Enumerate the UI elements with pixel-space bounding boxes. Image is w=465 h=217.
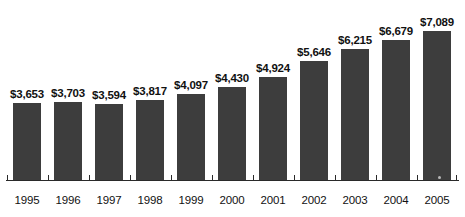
bar-group: $5,646 [300, 0, 328, 180]
x-axis-tick-mark [130, 175, 131, 180]
bar-chart: $3,653$3,703$3,594$3,817$4,097$4,430$4,9… [0, 0, 465, 217]
bar-value-label: $4,430 [215, 72, 249, 84]
x-axis-tick-label: 1996 [55, 194, 80, 206]
bar [259, 77, 287, 180]
bar [95, 104, 123, 180]
bar-group: $4,430 [218, 0, 246, 180]
x-axis-tick-label: 2005 [424, 194, 449, 206]
x-axis-tick-label: 2004 [383, 194, 408, 206]
x-axis-tick-mark [171, 175, 172, 180]
x-axis-tick-mark [253, 175, 254, 180]
bar-group: $3,703 [54, 0, 82, 180]
scan-artifact-speck [438, 176, 441, 179]
bar-value-label: $3,703 [51, 87, 85, 99]
bar-group: $3,817 [136, 0, 164, 180]
bar-group: $4,097 [177, 0, 205, 180]
x-axis-tick-label: 2002 [301, 194, 326, 206]
bar-value-label: $5,646 [297, 46, 331, 58]
x-axis-tick-mark [212, 175, 213, 180]
bar [136, 100, 164, 180]
bar [54, 102, 82, 180]
x-axis-tick-mark [48, 175, 49, 180]
bar [218, 87, 246, 180]
bar [382, 40, 410, 180]
bar [177, 94, 205, 180]
bar-group: $3,653 [13, 0, 41, 180]
bar-value-label: $3,817 [133, 85, 167, 97]
bar-value-label: $4,924 [256, 62, 290, 74]
x-axis-tick-mark [456, 175, 457, 180]
bar-value-label: $7,089 [420, 16, 454, 28]
x-axis-tick-label: 2001 [260, 194, 285, 206]
x-axis-tick-label: 1995 [14, 194, 39, 206]
x-axis-tick-mark [376, 175, 377, 180]
x-axis-tick-label: 1998 [137, 194, 162, 206]
x-axis-tick-mark [89, 175, 90, 180]
bar-value-label: $6,679 [379, 25, 413, 37]
x-axis-tick-label: 2000 [219, 194, 244, 206]
bar-value-label: $3,653 [10, 88, 44, 100]
x-axis-tick-label: 1999 [178, 194, 203, 206]
x-axis-baseline [6, 180, 459, 181]
x-axis-tick-mark [335, 175, 336, 180]
bar-group: $6,215 [341, 0, 369, 180]
bar [341, 49, 369, 180]
bar [423, 31, 451, 180]
bar-group: $7,089 [423, 0, 451, 180]
bar-value-label: $3,594 [92, 89, 126, 101]
bar [13, 103, 41, 180]
x-axis-tick-mark [7, 175, 8, 180]
bar [300, 61, 328, 180]
plot-area: $3,653$3,703$3,594$3,817$4,097$4,430$4,9… [0, 0, 465, 180]
bar-group: $4,924 [259, 0, 287, 180]
bar-value-label: $4,097 [174, 79, 208, 91]
x-axis-tick-label: 2003 [342, 194, 367, 206]
bar-value-label: $6,215 [338, 34, 372, 46]
x-axis-tick-label: 1997 [96, 194, 121, 206]
x-axis-tick-mark [417, 175, 418, 180]
x-axis-label-row: 1995199619971998199920002001200220032004… [0, 188, 465, 217]
bar-group: $6,679 [382, 0, 410, 180]
x-axis-tick-mark [294, 175, 295, 180]
bar-group: $3,594 [95, 0, 123, 180]
